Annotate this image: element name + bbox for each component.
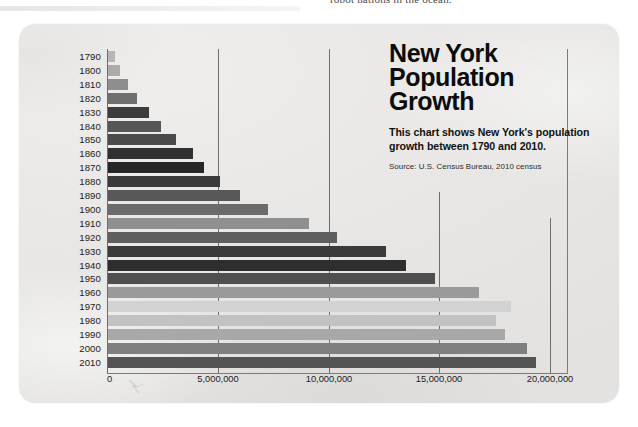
y-axis-label-1900: 1900	[45, 205, 101, 215]
x-axis-tick-0: 0	[107, 374, 112, 384]
y-axis-label-1880: 1880	[45, 177, 101, 187]
y-axis-label-1930: 1930	[45, 247, 101, 257]
x-axis-tick-10000000: 10,000,000	[306, 374, 353, 384]
y-axis-label-1810: 1810	[45, 80, 101, 90]
x-axis-tick-20000000: 20,000,000	[527, 374, 574, 384]
y-axis-label-1940: 1940	[45, 261, 101, 271]
y-axis-label-1830: 1830	[45, 108, 101, 118]
y-axis-label-1800: 1800	[45, 66, 101, 76]
y-axis-label-1980: 1980	[45, 316, 101, 326]
page-bleed: robot nations in the ocean.	[0, 0, 638, 14]
x-axis-tick-15000000: 15,000,000	[416, 374, 463, 384]
page-bleed-rule	[0, 6, 300, 11]
chart-title-block: New York Population Growth This chart sh…	[389, 41, 594, 172]
x-axis-tick-5000000: 5,000,000	[197, 374, 238, 384]
y-axis-label-1910: 1910	[45, 219, 101, 229]
chart-card: 1790180018101820183018401850186018701880…	[19, 24, 619, 403]
y-axis-label-2010: 2010	[45, 358, 101, 368]
y-axis-label-1990: 1990	[45, 330, 101, 340]
y-axis-label-1820: 1820	[45, 94, 101, 104]
page-title: New York Population Growth	[389, 41, 594, 113]
y-axis-label-1960: 1960	[45, 288, 101, 298]
y-axis-label-1950: 1950	[45, 274, 101, 284]
y-axis-label-1970: 1970	[45, 302, 101, 312]
y-axis-label-2000: 2000	[45, 344, 101, 354]
y-axis-label-1890: 1890	[45, 191, 101, 201]
y-axis-label-1850: 1850	[45, 135, 101, 145]
chart-description: This chart shows New York's population g…	[389, 126, 594, 153]
y-axis-label-1870: 1870	[45, 163, 101, 173]
y-axis-label-1860: 1860	[45, 149, 101, 159]
y-axis-label-1920: 1920	[45, 233, 101, 243]
y-axis-label-1790: 1790	[45, 52, 101, 62]
chart-source: Source: U.S. Census Bureau, 2010 census	[389, 162, 594, 172]
y-axis-label-1840: 1840	[45, 122, 101, 132]
page-bleed-text: robot nations in the ocean.	[330, 0, 452, 5]
